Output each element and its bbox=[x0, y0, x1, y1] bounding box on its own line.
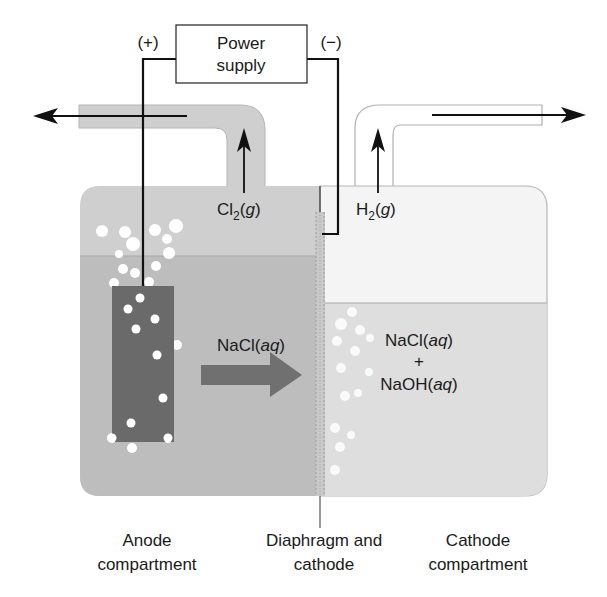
negative-terminal-label: (−) bbox=[320, 33, 341, 52]
diaphragm bbox=[316, 186, 325, 496]
positive-terminal-label: (+) bbox=[137, 33, 158, 52]
power-supply-label-line1: Power bbox=[217, 34, 266, 53]
cathode-solution-plus: + bbox=[414, 352, 424, 371]
anode-compartment-label-line1: Anode bbox=[122, 531, 171, 550]
cathode-solution-label-line2: NaOH(aq) bbox=[380, 375, 458, 394]
anode-gas-pipe bbox=[79, 105, 265, 188]
power-supply-label-line2: supply bbox=[216, 56, 266, 75]
power-supply: Power supply bbox=[176, 25, 307, 83]
cathode-solution-label-line1: NaCl(aq) bbox=[385, 331, 453, 350]
anode-solution-label: NaCl(aq) bbox=[217, 336, 285, 355]
electrolysis-diagram: Power supply (+) (−) Cl2(g) H2(g) NaCl(a… bbox=[0, 0, 607, 597]
cathode-compartment-label-line1: Cathode bbox=[446, 531, 510, 550]
cathode-compartment-label-line2: compartment bbox=[428, 555, 527, 574]
diaphragm-label-line2: cathode bbox=[294, 555, 355, 574]
anode-compartment-label-line2: compartment bbox=[97, 555, 196, 574]
anode-electrode bbox=[108, 286, 175, 443]
diaphragm-label-line1: Diaphragm and bbox=[266, 531, 382, 550]
